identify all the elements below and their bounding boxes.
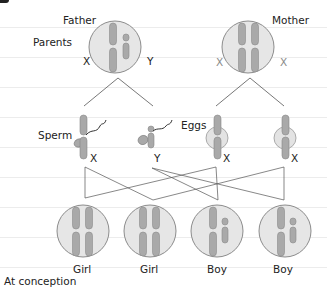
child-boy-2: [259, 205, 311, 257]
sperm-x-label: X: [90, 153, 97, 164]
father-y-label: Y: [147, 56, 153, 67]
father-x-label: X: [83, 56, 90, 67]
father-cell: [89, 21, 141, 73]
father-label: Father: [63, 15, 96, 26]
child-boy-1: [191, 205, 243, 257]
egg1-x-label: X: [223, 153, 230, 164]
mother-x1-label: X: [216, 57, 223, 68]
mother-label: Mother: [272, 15, 309, 26]
parent-gamete-lines: [84, 78, 284, 106]
sperm-label: Sperm: [38, 130, 72, 141]
child-girl-2: [124, 205, 176, 257]
child3-label: Boy: [207, 264, 227, 275]
eggs-label: Eggs: [181, 120, 206, 131]
footer-label: At conception: [4, 276, 76, 287]
child-girl-1: [57, 205, 109, 257]
sperm-y-label: Y: [154, 153, 160, 164]
mother-x2-label: X: [280, 57, 287, 68]
mother-cell: [222, 21, 274, 73]
sperm-y: [137, 120, 172, 148]
egg2-x-label: X: [291, 153, 298, 164]
child1-label: Girl: [73, 264, 91, 275]
child4-label: Boy: [273, 264, 293, 275]
parents-label: Parents: [33, 37, 72, 48]
fertilization-lines: [85, 167, 284, 200]
child2-label: Girl: [140, 264, 158, 275]
